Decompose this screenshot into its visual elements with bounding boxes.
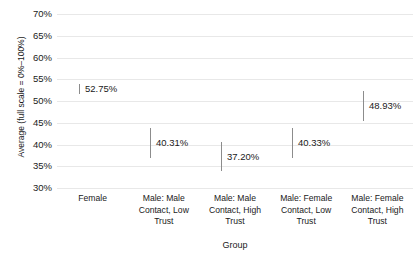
gridline xyxy=(57,14,413,15)
gridline xyxy=(57,145,413,146)
chart-figure: Average (full scale = 0%–100%) 70%65%60%… xyxy=(0,0,418,269)
x-axis-tick-label: Male: FemaleContact, LowTrust xyxy=(271,193,342,228)
x-axis-tick-label: Male: MaleContact, HighTrust xyxy=(199,193,270,228)
y-axis-tick-labels: 70%65%60%55%50%45%40%35%30% xyxy=(0,14,52,188)
x-axis-tick-line: Trust xyxy=(271,216,342,228)
x-axis-tick-line: Contact, Low xyxy=(271,205,342,217)
x-axis-tick-label: Male: FemaleContact, HighTrust xyxy=(342,193,413,228)
y-axis-tick-label: 40% xyxy=(6,140,52,150)
y-axis-tick-label: 60% xyxy=(6,53,52,63)
x-axis-tick-line: Male: Female xyxy=(342,193,413,205)
data-marker xyxy=(79,84,80,94)
gridline xyxy=(57,188,413,189)
x-axis-tick-line: Trust xyxy=(199,216,270,228)
gridline xyxy=(57,101,413,102)
x-axis-tick-line: Contact, Low xyxy=(128,205,199,217)
data-value-label: 40.31% xyxy=(156,137,188,148)
data-marker xyxy=(150,128,151,158)
gridline xyxy=(57,123,413,124)
plot-area: 52.75%40.31%37.20%40.33%48.93% xyxy=(57,14,413,188)
gridline xyxy=(57,58,413,59)
gridline xyxy=(57,166,413,167)
x-axis-tick-line: Male: Male xyxy=(128,193,199,205)
x-axis-tick-line: Contact, High xyxy=(199,205,270,217)
x-axis-tick-line: Male: Male xyxy=(199,193,270,205)
x-axis-title: Group xyxy=(57,239,413,251)
y-axis-tick-label: 30% xyxy=(6,183,52,193)
data-marker xyxy=(292,128,293,158)
data-value-label: 40.33% xyxy=(298,137,330,148)
x-axis-tick-label: Female xyxy=(57,193,128,205)
data-marker xyxy=(221,142,222,172)
x-axis-tick-labels: FemaleMale: MaleContact, LowTrustMale: M… xyxy=(57,193,413,235)
gridline xyxy=(57,36,413,37)
data-value-label: 48.93% xyxy=(369,100,401,111)
y-axis-tick-label: 55% xyxy=(6,74,52,84)
gridline xyxy=(57,79,413,80)
y-axis-tick-label: 35% xyxy=(6,161,52,171)
data-marker xyxy=(363,91,364,121)
x-axis-tick-line: Trust xyxy=(128,216,199,228)
y-axis-tick-label: 65% xyxy=(6,31,52,41)
data-value-label: 52.75% xyxy=(85,83,117,94)
x-axis-tick-line: Male: Female xyxy=(271,193,342,205)
x-axis-tick-line: Contact, High xyxy=(342,205,413,217)
y-axis-tick-label: 70% xyxy=(6,9,52,19)
y-axis-tick-label: 45% xyxy=(6,118,52,128)
x-axis-tick-label: Male: MaleContact, LowTrust xyxy=(128,193,199,228)
x-axis-tick-line: Female xyxy=(57,193,128,205)
y-axis-tick-label: 50% xyxy=(6,96,52,106)
x-axis-tick-line: Trust xyxy=(342,216,413,228)
data-value-label: 37.20% xyxy=(227,151,259,162)
